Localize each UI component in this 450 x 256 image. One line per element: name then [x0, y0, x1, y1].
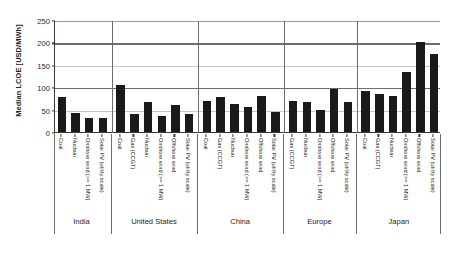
- x-tick-label: Onshore wind (>= 1 MW): [244, 138, 250, 201]
- y-tick-label-200: 200: [37, 39, 50, 48]
- x-tick-label: Nuclear: [72, 138, 78, 157]
- bar: [244, 107, 252, 132]
- x-tick-mark: [333, 134, 334, 137]
- bar: [416, 42, 424, 132]
- x-tick-label: Nuclear: [303, 138, 309, 157]
- x-tick: Coal: [358, 134, 372, 208]
- group-label-japan: Japan: [358, 208, 440, 234]
- x-tick-mark: [433, 134, 434, 137]
- group-divider: [197, 134, 198, 234]
- x-tick: Onshore wind (>= 1 MW): [81, 134, 95, 208]
- x-tick-label: Onshore wind (>= 1 MW): [85, 138, 91, 201]
- group-separator: [284, 21, 285, 133]
- group-divider-start: [54, 134, 55, 234]
- x-tick-mark: [188, 134, 189, 137]
- x-tick: Nuclear: [299, 134, 313, 208]
- bar: [303, 102, 311, 132]
- x-tick-label: Solar PV (utility scale): [271, 138, 277, 193]
- bar: [289, 101, 297, 132]
- bar: [116, 85, 124, 132]
- x-tick-mark: [419, 134, 420, 137]
- x-tick: Gas (CCGT): [127, 134, 141, 208]
- group-label-united-states: United States: [113, 208, 195, 234]
- y-tick-label-100: 100: [37, 84, 50, 93]
- y-tick-label-250: 250: [37, 17, 50, 26]
- y-tick-label-50: 50: [42, 106, 50, 115]
- x-tick-label: Onshore wind (>= 1 MW): [403, 138, 409, 201]
- x-axis-group-labels: IndiaUnited StatesChinaEuropeJapan: [54, 208, 440, 234]
- bar: [144, 102, 152, 132]
- y-axis-title: Median LCOE [USD/MWh]: [14, 1, 23, 141]
- x-tick: Coal: [113, 134, 127, 208]
- x-tick-mark: [119, 134, 120, 137]
- x-tick-label: Offshore wind: [258, 138, 264, 172]
- group-separator: [357, 21, 358, 133]
- bar: [99, 118, 107, 132]
- bar: [203, 101, 211, 132]
- group-label-china: China: [199, 208, 281, 234]
- bar: [402, 72, 410, 132]
- x-tick: Onshore wind (>= 1 MW): [154, 134, 168, 208]
- bar: [271, 112, 279, 132]
- x-tick: Solar PV (utility scale): [340, 134, 354, 208]
- plot-area: 050100150200250: [54, 21, 440, 133]
- y-tick-label-150: 150: [37, 61, 50, 70]
- bar: [361, 91, 369, 132]
- y-tick-label-0: 0: [46, 129, 50, 138]
- x-tick: Solar PV (utility scale): [95, 134, 109, 208]
- x-tick-mark: [378, 134, 379, 137]
- x-tick-mark: [319, 134, 320, 137]
- x-tick-mark: [160, 134, 161, 137]
- x-tick-mark: [88, 134, 89, 137]
- bar: [130, 114, 138, 132]
- x-tick-label: Coal: [203, 138, 209, 150]
- x-tick-label: Gas (CCGT): [130, 138, 136, 169]
- x-tick-mark: [364, 134, 365, 137]
- bar: [389, 96, 397, 132]
- x-tick-label: Onshore wind (>= 1 MW): [317, 138, 323, 201]
- x-tick: Nuclear: [140, 134, 154, 208]
- x-tick-label: Onshore wind (>= 1 MW): [158, 138, 164, 201]
- x-tick: Nuclear: [385, 134, 399, 208]
- group-divider: [283, 134, 284, 234]
- bar: [185, 114, 193, 132]
- x-tick: Solar PV (utility scale): [181, 134, 195, 208]
- x-tick: Coal: [199, 134, 213, 208]
- x-tick-mark: [174, 134, 175, 137]
- x-tick: Gas (CCGT): [213, 134, 227, 208]
- x-tick-mark: [219, 134, 220, 137]
- x-tick-mark: [74, 134, 75, 137]
- x-tick: Solar PV (utility scale): [426, 134, 440, 208]
- x-tick: Coal: [54, 134, 68, 208]
- group-separator: [198, 21, 199, 133]
- x-tick: Gas (CCGT): [285, 134, 299, 208]
- group-divider: [356, 134, 357, 234]
- x-tick-label: Solar PV (utility scale): [185, 138, 191, 193]
- x-tick-mark: [246, 134, 247, 137]
- bar: [71, 113, 79, 132]
- x-tick: Gas (CCGT): [371, 134, 385, 208]
- x-tick-label: Coal: [117, 138, 123, 150]
- bar: [171, 105, 179, 132]
- x-tick-mark: [305, 134, 306, 137]
- x-tick: Offshore wind: [168, 134, 182, 208]
- x-tick-label: Nuclear: [230, 138, 236, 157]
- bar: [257, 96, 265, 132]
- x-tick: Onshore wind (>= 1 MW): [399, 134, 413, 208]
- x-tick-label: Gas (CCGT): [375, 138, 381, 169]
- x-tick-label: Coal: [362, 138, 368, 150]
- x-tick-mark: [60, 134, 61, 137]
- group-separator: [112, 21, 113, 133]
- bar: [344, 102, 352, 132]
- x-tick: Offshore wind: [254, 134, 268, 208]
- x-tick: Nuclear: [226, 134, 240, 208]
- x-tick-mark: [405, 134, 406, 137]
- chart-figure: Median LCOE [USD/MWh] 050100150200250 Co…: [0, 0, 450, 256]
- x-tick-label: Offshore wind: [330, 138, 336, 172]
- group-label-europe: Europe: [285, 208, 354, 234]
- group-label-india: India: [54, 208, 109, 234]
- x-tick: Onshore wind (>= 1 MW): [240, 134, 254, 208]
- bar: [230, 104, 238, 132]
- x-tick-mark: [146, 134, 147, 137]
- x-tick-mark: [391, 134, 392, 137]
